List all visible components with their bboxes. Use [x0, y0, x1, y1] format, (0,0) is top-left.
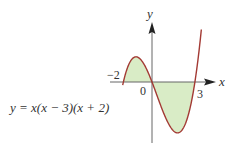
- y-axis-label: y: [145, 6, 153, 21]
- tick-label-origin: 0: [140, 84, 146, 98]
- cubic-graph: y x −2 0 3 y = x(x − 3)(x + 2): [0, 0, 236, 147]
- tick-label-3: 3: [197, 87, 203, 101]
- x-axis-label: x: [218, 74, 225, 89]
- shaded-area: [123, 57, 194, 133]
- tick-label-neg2: −2: [107, 68, 120, 82]
- equation-label: y = x(x − 3)(x + 2): [8, 100, 109, 115]
